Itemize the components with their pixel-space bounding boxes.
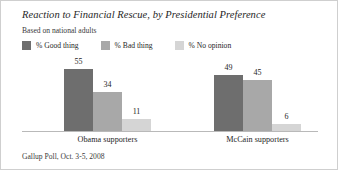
legend-swatch-no-opinion xyxy=(175,41,184,50)
chart-subtitle: Based on national adults xyxy=(22,26,96,35)
bar-value-label: 6 xyxy=(285,113,289,121)
legend-label-no-opinion: % No opinion xyxy=(189,41,232,50)
chart-figure: Reaction to Financial Rescue, by Preside… xyxy=(0,0,338,170)
bar-column: 34 xyxy=(93,81,122,131)
legend-item-good-thing: % Good thing xyxy=(22,41,79,50)
legend-item-bad-thing: % Bad thing xyxy=(101,41,153,50)
legend-label-good-thing: % Good thing xyxy=(36,41,79,50)
legend-swatch-good-thing xyxy=(22,41,31,50)
chart-baseline-axis xyxy=(22,131,318,132)
chart-source-note: Gallup Poll, Oct. 3-5, 2008 xyxy=(22,152,104,161)
bar-column: 49 xyxy=(214,64,243,131)
bar xyxy=(64,69,93,131)
bar xyxy=(272,124,301,131)
category-label: McCain supporters xyxy=(214,135,301,144)
bar xyxy=(122,119,151,131)
legend-swatch-bad-thing xyxy=(101,41,110,50)
bar xyxy=(214,75,243,131)
bar-value-label: 49 xyxy=(225,64,233,72)
bar-value-label: 11 xyxy=(133,108,141,116)
chart-plot-area: 55341149456 xyxy=(22,63,317,131)
bar-column: 11 xyxy=(122,108,151,131)
bar-column: 45 xyxy=(243,69,272,131)
chart-title: Reaction to Financial Rescue, by Preside… xyxy=(22,9,265,20)
bar-value-label: 45 xyxy=(254,69,262,77)
bar-value-label: 55 xyxy=(75,58,83,66)
legend-item-no-opinion: % No opinion xyxy=(175,41,232,50)
bar xyxy=(243,80,272,131)
bar-column: 6 xyxy=(272,113,301,131)
bar-value-label: 34 xyxy=(104,81,112,89)
chart-legend: % Good thing % Bad thing % No opinion xyxy=(22,41,253,50)
category-label: Obama supporters xyxy=(64,135,151,144)
bar-group: 49456 xyxy=(214,63,301,131)
legend-label-bad-thing: % Bad thing xyxy=(115,41,153,50)
bar xyxy=(93,92,122,131)
bar-column: 55 xyxy=(64,58,93,131)
bar-group: 553411 xyxy=(64,63,151,131)
